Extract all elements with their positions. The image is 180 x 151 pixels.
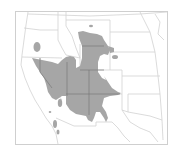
range-map [0, 0, 180, 151]
range-map-svg [0, 0, 180, 151]
